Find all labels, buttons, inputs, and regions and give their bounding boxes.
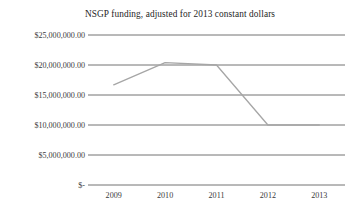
data-line xyxy=(114,63,320,125)
chart-container: NSGP funding, adjusted for 2013 constant… xyxy=(0,0,360,217)
y-axis-tick-label: $20,000,000.00 xyxy=(0,61,85,70)
y-axis-tick-label: $- xyxy=(0,181,85,190)
data-series-group xyxy=(114,63,320,125)
y-axis-tick-label: $25,000,000.00 xyxy=(0,31,85,40)
y-axis-tick-label: $5,000,000.00 xyxy=(0,151,85,160)
gridlines-group xyxy=(88,35,345,185)
y-axis-tick-label: $15,000,000.00 xyxy=(0,91,85,100)
y-axis-tick-label: $10,000,000.00 xyxy=(0,121,85,130)
x-axis-tick-label: 2013 xyxy=(289,191,349,200)
